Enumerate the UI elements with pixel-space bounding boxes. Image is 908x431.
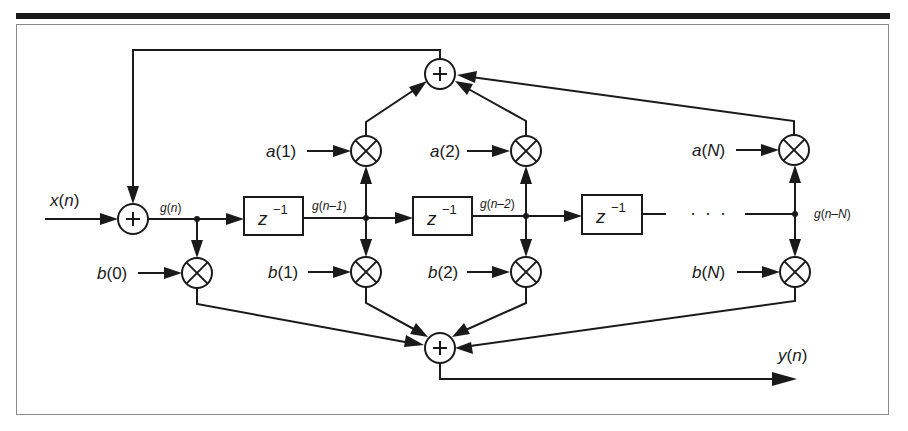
delay-exponent: −1 (442, 202, 457, 217)
multiplier-b0 (182, 258, 212, 288)
arrowhead (333, 266, 351, 278)
a1-sum-wire (366, 86, 420, 136)
arrowhead (360, 166, 372, 184)
arrowhead (761, 144, 779, 156)
arrowhead (404, 335, 424, 347)
arrowhead (360, 239, 372, 257)
arrowhead (164, 267, 182, 279)
b1-sum-wire (366, 287, 421, 333)
b2-sum-wire (459, 287, 526, 333)
multiplier-aN (779, 135, 809, 165)
arrowhead (191, 240, 203, 258)
signal-label-gn1: g(n–1) (312, 199, 347, 213)
arrowhead (333, 145, 351, 157)
top-rule (16, 13, 890, 19)
coef-label-a1: a(1) (266, 142, 296, 161)
multiplier-a2 (511, 136, 541, 166)
delay-base: z (595, 206, 606, 227)
arrowhead (520, 166, 532, 184)
arrowhead (457, 71, 477, 83)
arrowhead (409, 81, 427, 97)
coef-label-aN: a(N) (692, 141, 725, 160)
arrowhead (127, 186, 139, 204)
arrowhead (772, 372, 797, 386)
multiplier-bN (780, 257, 810, 287)
feedback-adder (425, 59, 455, 89)
delay-exponent: −1 (611, 200, 626, 215)
output-wire (440, 363, 777, 379)
input-label: x(n) (49, 191, 79, 210)
delay-base: z (257, 208, 268, 229)
signal-label-gn: g(n) (160, 201, 181, 215)
arrowhead (520, 239, 532, 257)
arrowhead (395, 212, 413, 224)
coef-label-b1: b(1) (268, 263, 298, 282)
delay-block-3: z −1 (582, 195, 642, 234)
multiplier-a1 (351, 136, 381, 166)
iir-filter-diagram: z −1 z −1 z −1 · · · (0, 0, 908, 431)
delay-block-1: z −1 (244, 197, 303, 235)
coef-label-b2: b(2) (428, 263, 458, 282)
feedback-return-wire (133, 50, 440, 196)
arrowhead (789, 239, 801, 257)
arrowhead (452, 323, 470, 337)
arrowhead (564, 210, 582, 222)
delay-block-2: z −1 (413, 197, 472, 235)
arrowhead (492, 145, 510, 157)
a2-sum-wire (463, 86, 526, 136)
ellipsis: · · · (690, 203, 728, 223)
coef-label-b0: b(0) (97, 264, 127, 283)
arrowhead (410, 323, 428, 337)
coef-label-bN: b(N) (692, 263, 725, 282)
arrowhead (226, 213, 244, 225)
bN-sum-wire (463, 287, 795, 347)
delay-base: z (426, 208, 437, 229)
signal-label-gn2: g(n–2) (480, 197, 515, 211)
output-label: y(n) (777, 346, 807, 365)
output-adder (425, 333, 455, 363)
arrowhead (789, 165, 801, 183)
b0-sum-wire (197, 288, 416, 344)
arrowhead (762, 266, 780, 278)
arrowhead (455, 342, 473, 354)
aN-sum-wire (471, 77, 794, 135)
arrowhead (100, 213, 118, 225)
multiplier-b2 (511, 257, 541, 287)
input-adder (118, 204, 148, 234)
signal-label-gnN: g(n–N) (814, 207, 851, 221)
coef-label-a2: a(2) (430, 142, 460, 161)
arrowhead (455, 81, 473, 95)
arrowhead (492, 266, 510, 278)
delay-exponent: −1 (273, 202, 288, 217)
multiplier-b1 (351, 257, 381, 287)
